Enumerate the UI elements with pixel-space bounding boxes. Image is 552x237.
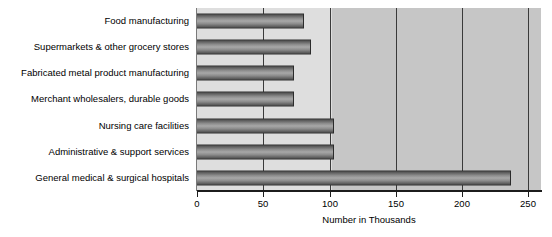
bar-food-manufacturing	[197, 14, 304, 29]
x-tick-mark-100	[330, 192, 331, 197]
category-label-administrative-support-services: Administrative & support services	[49, 147, 189, 157]
x-tick-label-0: 0	[194, 198, 199, 209]
x-tick-mark-200	[462, 192, 463, 197]
gridline-250	[528, 8, 529, 190]
x-tick-label-50: 50	[258, 198, 269, 209]
x-tick-mark-150	[396, 192, 397, 197]
category-label-merchant-wholesalers-durable-goods: Merchant wholesalers, durable goods	[31, 94, 189, 104]
x-tick-mark-50	[263, 192, 264, 197]
category-label-fabricated-metal-product-manufacturing: Fabricated metal product manufacturing	[21, 68, 189, 78]
x-tick-label-250: 250	[520, 198, 536, 209]
bar-fabricated-metal-product-manufacturing	[197, 66, 294, 81]
category-axis: Food manufacturing Supermarkets & other …	[0, 8, 193, 190]
x-tick-mark-250	[528, 192, 529, 197]
x-axis-line	[197, 190, 542, 192]
y-axis-line	[196, 8, 197, 191]
x-tick-label-150: 150	[388, 198, 404, 209]
category-label-nursing-care-facilities: Nursing care facilities	[99, 121, 189, 131]
bar-chart-figure: Food manufacturing Supermarkets & other …	[0, 0, 552, 237]
category-label-supermarkets-grocery-stores: Supermarkets & other grocery stores	[34, 42, 189, 52]
bar-general-medical-surgical-hospitals	[197, 171, 511, 186]
plot-area	[197, 8, 541, 190]
x-tick-label-100: 100	[322, 198, 338, 209]
x-tick-label-200: 200	[454, 198, 470, 209]
gridline-200	[462, 8, 463, 190]
gridline-150	[396, 8, 397, 190]
x-tick-mark-0	[197, 192, 198, 197]
category-label-general-medical-surgical-hospitals: General medical & surgical hospitals	[35, 173, 189, 183]
bar-administrative-support-services	[197, 145, 334, 160]
bar-supermarkets-grocery-stores	[197, 40, 311, 55]
bar-nursing-care-facilities	[197, 119, 334, 134]
category-label-food-manufacturing: Food manufacturing	[105, 16, 190, 26]
x-axis-title: Number in Thousands	[197, 214, 541, 225]
bar-merchant-wholesalers-durable-goods	[197, 92, 294, 107]
gridline-100	[330, 8, 331, 190]
